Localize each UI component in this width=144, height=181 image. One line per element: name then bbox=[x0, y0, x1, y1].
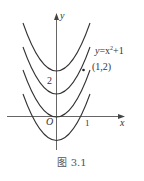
equation-label: y=x2+1 bbox=[94, 45, 124, 56]
origin-label: O bbox=[46, 116, 53, 127]
point-label: (1,2) bbox=[92, 61, 111, 73]
tick-y-2: 2 bbox=[47, 75, 52, 86]
y-axis-arrow-icon bbox=[54, 13, 59, 20]
tick-x-1: 1 bbox=[85, 118, 90, 128]
point-marker bbox=[82, 69, 85, 72]
axis-y-label: y bbox=[59, 10, 65, 21]
figure-caption: 图 3.1 bbox=[0, 154, 144, 169]
axis-x-label: x bbox=[119, 117, 125, 128]
